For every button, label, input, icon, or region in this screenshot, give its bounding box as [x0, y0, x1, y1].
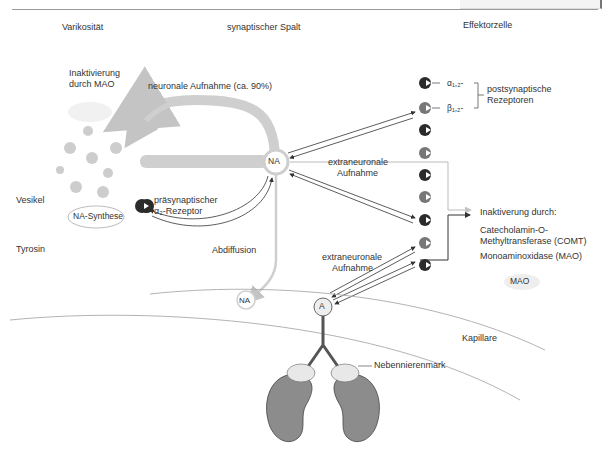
mao-zone-left: [68, 102, 112, 122]
release-bar: [140, 155, 268, 168]
label-extraneuronal-1b: Aufnahme: [337, 168, 378, 179]
capillary-lower: [10, 315, 520, 400]
label-extraneuronal-2b: Aufnahme: [332, 263, 373, 274]
label-inactivation-mao-2: durch MAO: [69, 79, 115, 90]
label-adrenaline: A: [319, 301, 325, 312]
label-vesicle: Vesikel: [16, 195, 45, 206]
label-abdiffusion: Abdiffusion: [212, 245, 256, 256]
label-mao-full: Monoaminoxidase (MAO): [480, 251, 582, 262]
label-comt-1: Catecholamin-O-: [480, 225, 548, 236]
label-neuronal-uptake: neuronale Aufnahme (ca. 90%): [148, 81, 272, 92]
receptor-column: [419, 77, 431, 271]
label-alpha-receptor: α₁,₂-: [447, 78, 463, 89]
label-postsynaptic-2: Rezeptoren: [487, 95, 534, 106]
label-na-synthesis: NA-Synthese: [73, 211, 123, 222]
label-comt-2: Methyltransferase (COMT): [480, 236, 587, 247]
label-tyrosine: Tyrosin: [16, 244, 45, 255]
label-na-center: NA: [268, 156, 280, 167]
neuronal-uptake-arc: [120, 100, 275, 160]
kidneys: [267, 364, 380, 442]
column-label-varikositaet: Varikosität: [62, 22, 103, 33]
label-inactivation-mao-1: Inaktivierung: [69, 68, 120, 79]
vesicles: [56, 126, 122, 198]
label-postsynaptic-1: postsynaptische: [487, 84, 552, 95]
label-inactivation-by: Inaktiverung durch:: [480, 207, 557, 218]
label-na-diffused: NA: [239, 295, 250, 306]
column-label-synaptic-cleft: synaptischer Spalt: [227, 22, 301, 33]
column-label-effector-cell: Effektorzelle: [463, 20, 512, 31]
na-receptor-arrows: [288, 112, 415, 304]
label-mao-small: MAO: [510, 276, 529, 287]
label-capillary: Kapillare: [462, 333, 497, 344]
label-presynaptic-2: α₂-Rezeptor: [154, 206, 202, 217]
label-adrenal-medulla: Nebennierenmark: [374, 360, 446, 371]
abdiffusion-path: [250, 175, 276, 300]
label-beta-receptor: β₁,₂-: [447, 103, 463, 114]
label-extraneuronal-2a: extraneuronale: [322, 252, 382, 263]
extraneuronal-line-light: [290, 162, 470, 210]
label-extraneuronal-1a: extraneuronale: [328, 157, 388, 168]
label-presynaptic-1: präsynaptischer: [154, 195, 218, 206]
adrenal-vessel: [307, 316, 339, 368]
